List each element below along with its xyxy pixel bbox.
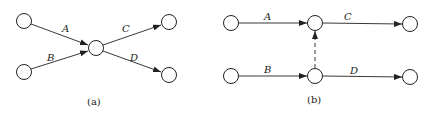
edge-a-B bbox=[31, 51, 88, 69]
node-b-bottom-middle bbox=[308, 69, 323, 84]
node-a-right-bottom bbox=[162, 68, 177, 83]
edge-label-b-C: C bbox=[344, 11, 352, 22]
diagram-a: A B C D (a) bbox=[17, 14, 177, 108]
node-b-bottom-left bbox=[224, 69, 239, 84]
caption-b: (b) bbox=[307, 94, 321, 105]
edge-label-a-D: D bbox=[129, 52, 138, 63]
edge-b-D bbox=[323, 76, 402, 77]
node-b-top-middle bbox=[308, 16, 323, 31]
network-diagrams: A B C D (a) A C B D (b) bbox=[0, 0, 423, 114]
edge-a-A bbox=[31, 24, 88, 45]
edge-label-b-A: A bbox=[263, 11, 271, 22]
edge-label-b-B: B bbox=[263, 64, 271, 75]
node-b-bottom-right bbox=[403, 70, 418, 85]
diagram-b: A C B D (b) bbox=[224, 11, 418, 105]
edge-label-a-A: A bbox=[61, 23, 69, 34]
caption-a: (a) bbox=[87, 96, 101, 107]
node-a-left-top bbox=[17, 14, 32, 29]
edge-b-C bbox=[323, 23, 402, 24]
edge-label-b-D: D bbox=[349, 65, 358, 76]
node-a-left-bottom bbox=[17, 65, 32, 80]
edge-label-a-B: B bbox=[46, 52, 54, 63]
node-b-top-left bbox=[224, 16, 239, 31]
edge-label-a-C: C bbox=[122, 23, 130, 34]
node-a-right-top bbox=[162, 15, 177, 30]
edge-a-C bbox=[103, 25, 161, 45]
node-b-top-right bbox=[403, 17, 418, 32]
node-a-center bbox=[89, 41, 104, 56]
